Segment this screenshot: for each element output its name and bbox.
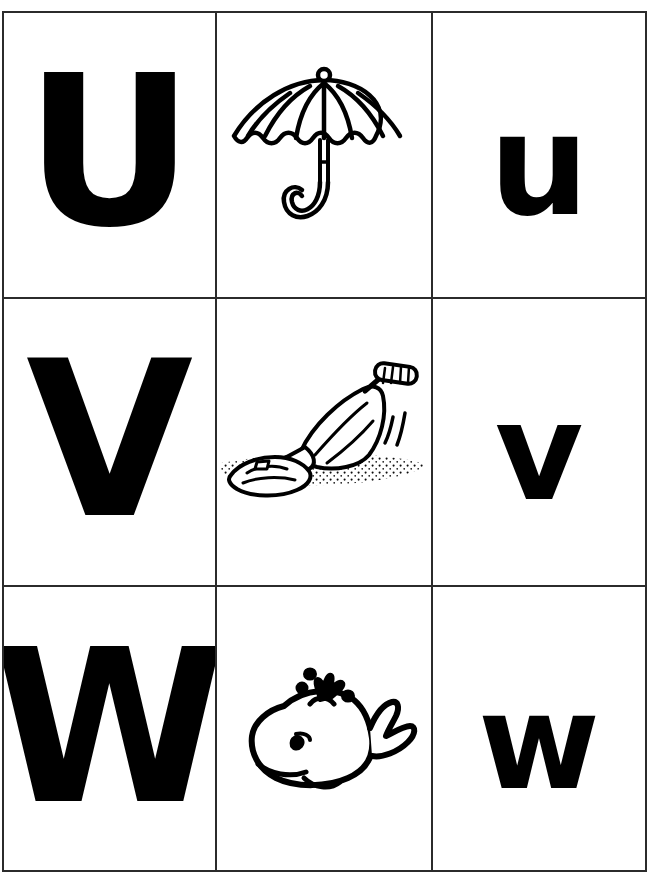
cell-uppercase-u[interactable]: U — [4, 13, 215, 297]
cell-uppercase-v[interactable]: V — [4, 297, 215, 585]
lowercase-letter-w: w — [478, 676, 600, 808]
lowercase-letter-v: v — [495, 384, 584, 520]
umbrella-icon — [224, 62, 424, 242]
uppercase-letter-v: V — [26, 333, 193, 549]
flashcard-sheet: U — [0, 0, 651, 880]
vacuum-cleaner-icon — [217, 359, 431, 529]
whale-icon — [224, 652, 424, 812]
cell-lowercase-v[interactable]: v — [431, 297, 645, 585]
uppercase-letter-u: U — [25, 48, 194, 256]
cell-lowercase-u[interactable]: u — [431, 13, 645, 297]
cell-picture-whale[interactable] — [215, 585, 431, 870]
lowercase-letter-u: u — [489, 96, 589, 236]
cell-picture-umbrella[interactable] — [215, 13, 431, 297]
uppercase-letter-w: W — [4, 622, 215, 834]
flashcard-grid: U — [2, 11, 647, 872]
cell-uppercase-w[interactable]: W — [4, 585, 215, 870]
cell-picture-vacuum-cleaner[interactable] — [215, 297, 431, 585]
cell-lowercase-w[interactable]: w — [431, 585, 645, 870]
